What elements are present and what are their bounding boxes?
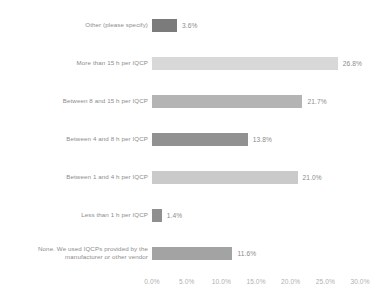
x-axis-tick: 0.0% <box>144 278 159 285</box>
bar-area: 13.8% <box>152 120 382 158</box>
bar-value-label: 21.7% <box>307 98 326 105</box>
bar-value-label: 3.6% <box>182 22 197 29</box>
bar-value-label: 21.0% <box>303 174 322 181</box>
category-label: Between 8 and 15 h per IQCP <box>2 97 148 105</box>
bar-area: 26.8% <box>152 44 382 82</box>
chart-row: Other (please specify) 3.6% <box>0 6 382 44</box>
bar[interactable] <box>152 19 177 32</box>
x-axis-tick: 5.0% <box>179 278 194 285</box>
bar[interactable] <box>152 209 162 222</box>
x-axis-tick: 20.0% <box>281 278 300 285</box>
category-label: More than 15 h per IQCP <box>2 59 148 67</box>
chart-row: None. We used IQCPs provided by the manu… <box>0 234 382 272</box>
category-label: Between 4 and 8 h per IQCP <box>2 135 148 143</box>
bar[interactable] <box>152 133 248 146</box>
category-label: Less than 1 h per IQCP <box>2 211 148 219</box>
category-label: Between 1 and 4 h per IQCP <box>2 173 148 181</box>
bar-area: 21.7% <box>152 82 382 120</box>
chart-row: Between 4 and 8 h per IQCP 13.8% <box>0 120 382 158</box>
chart-row: More than 15 h per IQCP 26.8% <box>0 44 382 82</box>
x-axis-tick: 10.0% <box>212 278 231 285</box>
chart-row: Between 1 and 4 h per IQCP 21.0% <box>0 158 382 196</box>
bar-area: 1.4% <box>152 196 382 234</box>
bar-value-label: 13.8% <box>253 136 272 143</box>
bar-value-label: 11.6% <box>237 250 256 257</box>
bar[interactable] <box>152 57 338 70</box>
x-axis-tick: 25.0% <box>316 278 335 285</box>
bar-area: 11.6% <box>152 234 382 272</box>
bar-area: 3.6% <box>152 6 382 44</box>
bar-value-label: 26.8% <box>343 60 362 67</box>
category-label: None. We used IQCPs provided by the manu… <box>2 245 148 261</box>
x-axis-tick: 15.0% <box>246 278 265 285</box>
bar[interactable] <box>152 95 302 108</box>
chart-row: Less than 1 h per IQCP 1.4% <box>0 196 382 234</box>
bar-chart: Other (please specify) 3.6% More than 15… <box>0 0 382 300</box>
x-axis-tick: 30.0% <box>350 278 369 285</box>
bar-value-label: 1.4% <box>167 212 182 219</box>
category-label: Other (please specify) <box>2 21 148 29</box>
bar[interactable] <box>152 247 232 260</box>
bar[interactable] <box>152 171 298 184</box>
bar-area: 21.0% <box>152 158 382 196</box>
chart-row: Between 8 and 15 h per IQCP 21.7% <box>0 82 382 120</box>
x-axis: 0.0% 5.0% 10.0% 15.0% 20.0% 25.0% 30.0% <box>0 278 382 292</box>
